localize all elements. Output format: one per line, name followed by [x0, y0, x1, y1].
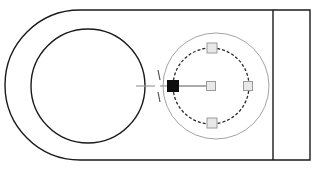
grip-bottom[interactable] — [207, 118, 217, 128]
grip-center[interactable] — [207, 82, 216, 91]
part-outline[interactable] — [5, 10, 310, 160]
grip-left[interactable] — [168, 81, 179, 92]
grip-right[interactable] — [244, 82, 253, 91]
crosshair-cursor — [136, 70, 172, 102]
cad-viewport[interactable] — [0, 0, 321, 172]
drawing-canvas[interactable] — [0, 0, 321, 172]
crosshair-arm-north — [158, 70, 160, 80]
bore-circle-left[interactable] — [31, 29, 145, 143]
crosshair-arm-south — [158, 92, 160, 102]
grip-top[interactable] — [207, 43, 217, 53]
